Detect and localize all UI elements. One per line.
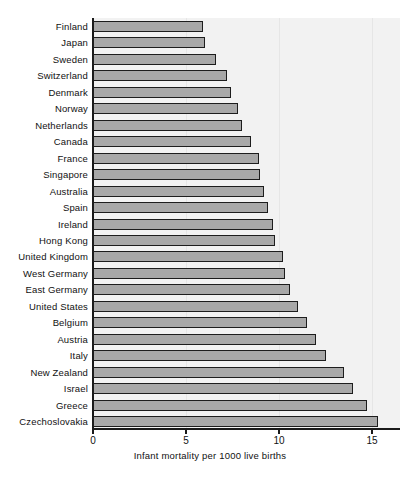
category-label: Denmark xyxy=(0,87,88,98)
bar-row xyxy=(93,153,259,164)
bar-row xyxy=(93,136,251,147)
bar-row xyxy=(93,383,353,394)
category-label: West Germany xyxy=(0,268,88,279)
bar xyxy=(93,54,216,65)
bar-row xyxy=(93,400,367,411)
category-label: Norway xyxy=(0,103,88,114)
category-label: East Germany xyxy=(0,284,88,295)
bar xyxy=(93,317,307,328)
category-label: Sweden xyxy=(0,54,88,65)
category-label: France xyxy=(0,153,88,164)
bar-row xyxy=(93,103,238,114)
category-label: Singapore xyxy=(0,169,88,180)
bar-row xyxy=(93,350,326,361)
bar-row xyxy=(93,186,264,197)
bar-row xyxy=(93,317,307,328)
tick-label: 5 xyxy=(183,435,189,447)
category-label: Italy xyxy=(0,350,88,361)
bar-row xyxy=(93,367,344,378)
bar-row xyxy=(93,21,203,32)
bar xyxy=(93,383,353,394)
tick-label: 0 xyxy=(90,435,96,447)
x-axis-title: Infant mortality per 1000 live births xyxy=(0,450,420,461)
category-label: Israel xyxy=(0,383,88,394)
bar-row xyxy=(93,169,260,180)
category-label: Ireland xyxy=(0,219,88,230)
bar xyxy=(93,367,344,378)
bar-row xyxy=(93,70,227,81)
bar-row xyxy=(93,37,205,48)
category-label: Greece xyxy=(0,400,88,411)
bar xyxy=(93,235,275,246)
category-label: Hong Kong xyxy=(0,235,88,246)
bar-row xyxy=(93,334,316,345)
bar xyxy=(93,136,251,147)
bar-row xyxy=(93,268,285,279)
bar-row xyxy=(93,235,275,246)
category-label: Japan xyxy=(0,37,88,48)
x-axis-ticks: 051015 xyxy=(0,430,420,450)
bar xyxy=(93,153,259,164)
bar xyxy=(93,21,203,32)
tick-mark-5 xyxy=(185,430,187,434)
bar-row xyxy=(93,219,273,230)
bar xyxy=(93,334,316,345)
bar xyxy=(93,284,290,295)
category-label: New Zealand xyxy=(0,367,88,378)
infant-mortality-bar-chart: FinlandJapanSwedenSwitzerlandDenmarkNorw… xyxy=(0,0,420,480)
bar xyxy=(93,103,238,114)
tick-label: 15 xyxy=(367,435,378,447)
category-label: Netherlands xyxy=(0,120,88,131)
category-label: Australia xyxy=(0,186,88,197)
bar xyxy=(93,400,367,411)
category-axis-labels: FinlandJapanSwedenSwitzerlandDenmarkNorw… xyxy=(0,18,88,430)
bar xyxy=(93,350,326,361)
bar-row xyxy=(93,251,283,262)
category-label: Austria xyxy=(0,334,88,345)
bar-row xyxy=(93,120,242,131)
bar-row xyxy=(93,87,231,98)
bar-row xyxy=(93,284,290,295)
bar-row xyxy=(93,54,216,65)
bar xyxy=(93,120,242,131)
category-label: United Kingdom xyxy=(0,251,88,262)
bar xyxy=(93,186,264,197)
bar-row xyxy=(93,301,298,312)
category-label: United States xyxy=(0,301,88,312)
category-label: Finland xyxy=(0,21,88,32)
bar xyxy=(93,219,273,230)
category-label: Canada xyxy=(0,136,88,147)
bar xyxy=(93,202,268,213)
bar xyxy=(93,87,231,98)
bar xyxy=(93,416,378,427)
bar-row xyxy=(93,416,378,427)
category-label: Spain xyxy=(0,202,88,213)
category-label: Belgium xyxy=(0,317,88,328)
bar xyxy=(93,169,260,180)
bar xyxy=(93,37,205,48)
tick-label: 10 xyxy=(273,435,284,447)
bar-row xyxy=(93,202,268,213)
category-label: Switzerland xyxy=(0,70,88,81)
bar xyxy=(93,70,227,81)
category-label: Czechoslovakia xyxy=(0,416,88,427)
tick-mark-10 xyxy=(278,430,280,434)
bar xyxy=(93,301,298,312)
bar xyxy=(93,251,283,262)
tick-mark-0 xyxy=(92,430,94,434)
bar xyxy=(93,268,285,279)
tick-mark-15 xyxy=(371,430,373,434)
